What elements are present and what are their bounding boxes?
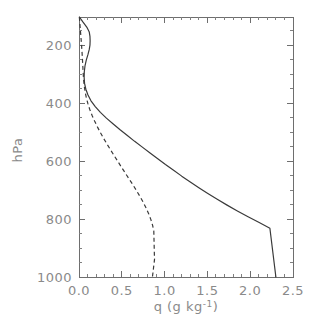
y-axis-tick-labels: 2004006008001000 xyxy=(37,38,72,285)
data-series-group xyxy=(79,17,276,277)
y-axis-major-ticks xyxy=(79,45,293,277)
plot-frame xyxy=(79,17,293,277)
x-axis-title: q (g kg-1) xyxy=(154,299,219,314)
profile-chart: 0.00.51.01.52.02.5 2004006008001000 q (g… xyxy=(0,0,322,335)
x-tick-label: 2.0 xyxy=(239,283,261,298)
series-dashed-profile xyxy=(79,17,154,277)
x-tick-label: 2.5 xyxy=(282,283,304,298)
x-tick-label: 1.0 xyxy=(154,283,176,298)
x-tick-label: 1.5 xyxy=(196,283,218,298)
x-tick-label: 0.0 xyxy=(68,283,90,298)
x-axis-tick-labels: 0.00.51.01.52.02.5 xyxy=(68,283,304,298)
figure-container: 0.00.51.01.52.02.5 2004006008001000 q (g… xyxy=(0,0,322,335)
y-tick-label: 1000 xyxy=(37,270,72,285)
y-axis-title: hPa xyxy=(10,138,25,163)
x-axis-major-ticks xyxy=(79,17,293,277)
x-tick-label: 0.5 xyxy=(111,283,133,298)
y-axis-minor-ticks xyxy=(79,31,293,263)
y-tick-label: 800 xyxy=(46,212,72,227)
y-tick-label: 600 xyxy=(46,154,72,169)
y-tick-label: 200 xyxy=(46,38,72,53)
x-axis-minor-ticks xyxy=(88,17,285,277)
y-tick-label: 400 xyxy=(46,96,72,111)
